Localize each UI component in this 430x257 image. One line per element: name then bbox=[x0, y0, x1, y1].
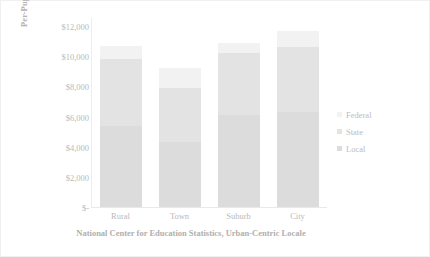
legend-swatch-icon bbox=[337, 129, 342, 134]
bar-segment-local[interactable] bbox=[277, 112, 319, 207]
x-axis-title: National Center for Education Statistics… bbox=[41, 228, 341, 238]
chart-legend: FederalStateLocal bbox=[337, 107, 423, 158]
bar-segment-local[interactable] bbox=[100, 126, 142, 207]
y-axis-tick-label: $- bbox=[35, 203, 89, 213]
x-axis-tick-label: City bbox=[268, 211, 328, 221]
x-axis-tick-label: Rural bbox=[91, 211, 151, 221]
x-axis-tick-labels: RuralTownSuburbCity bbox=[91, 211, 327, 225]
bar-segment-state[interactable] bbox=[159, 88, 201, 142]
bar-series-group bbox=[91, 26, 327, 207]
y-axis-tick-label: $10,000 bbox=[35, 52, 89, 62]
bar-segment-local[interactable] bbox=[159, 142, 201, 207]
x-axis-line bbox=[91, 207, 327, 208]
bar-town[interactable] bbox=[159, 68, 201, 207]
y-axis-tick-labels: $-$2,000$4,000$6,000$8,000$10,000$12,000 bbox=[35, 1, 89, 257]
plot-area bbox=[91, 26, 327, 208]
bar-segment-federal[interactable] bbox=[159, 68, 201, 88]
legend-label: Local bbox=[346, 144, 365, 154]
legend-item-local[interactable]: Local bbox=[337, 141, 423, 156]
bar-segment-federal[interactable] bbox=[100, 46, 142, 60]
x-axis-tick-label: Suburb bbox=[209, 211, 269, 221]
bar-segment-state[interactable] bbox=[277, 47, 319, 112]
bar-suburb[interactable] bbox=[218, 43, 260, 207]
legend-swatch-icon bbox=[337, 112, 342, 117]
y-axis-tick-label: $8,000 bbox=[35, 82, 89, 92]
y-axis-title: Per-Pupil Expenditure bbox=[19, 0, 33, 55]
y-axis-tick-label: $2,000 bbox=[35, 173, 89, 183]
bar-segment-federal[interactable] bbox=[277, 31, 319, 48]
legend-item-state[interactable]: State bbox=[337, 124, 423, 139]
bar-rural[interactable] bbox=[100, 46, 142, 207]
y-axis-tick-label: $4,000 bbox=[35, 143, 89, 153]
legend-item-federal[interactable]: Federal bbox=[337, 107, 423, 122]
chart-container: Per-Pupil Expenditure $-$2,000$4,000$6,0… bbox=[0, 0, 430, 257]
legend-label: State bbox=[346, 127, 363, 137]
bar-segment-local[interactable] bbox=[218, 115, 260, 207]
bar-segment-state[interactable] bbox=[218, 53, 260, 115]
legend-label: Federal bbox=[346, 110, 372, 120]
y-axis-tick-label: $6,000 bbox=[35, 113, 89, 123]
bar-segment-state[interactable] bbox=[100, 59, 142, 125]
legend-swatch-icon bbox=[337, 146, 342, 151]
x-axis-tick-label: Town bbox=[150, 211, 210, 221]
bar-city[interactable] bbox=[277, 31, 319, 207]
y-axis-tick-label: $12,000 bbox=[35, 22, 89, 32]
bar-segment-federal[interactable] bbox=[218, 43, 260, 54]
